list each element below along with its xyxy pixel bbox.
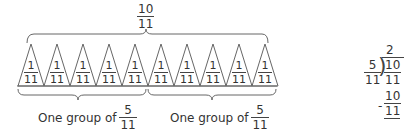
piece-denominator: 11 [154, 72, 168, 85]
piece-denominator: 11 [50, 72, 64, 85]
piece-numerator: 1 [210, 60, 217, 72]
divisor-denominator: 11 [364, 72, 381, 86]
piece-label: 1 11 [148, 60, 174, 85]
piece-denominator: 11 [206, 72, 220, 85]
piece-label: 1 11 [200, 60, 226, 85]
group-denominator: 11 [119, 117, 136, 131]
piece-label: 1 11 [18, 60, 44, 85]
group-fraction: 5 11 [119, 104, 136, 131]
group-label-text: One group of [38, 111, 116, 125]
piece-denominator: 11 [24, 72, 38, 85]
piece-label: 1 11 [252, 60, 278, 85]
dividend-denominator: 11 [384, 72, 401, 86]
dividend-fraction: 10 11 [384, 59, 401, 86]
piece-label: 1 11 [96, 60, 122, 85]
piece-denominator: 11 [102, 72, 116, 85]
divisor-fraction: 5 11 [364, 59, 381, 86]
long-division: 2 ) 5 11 10 11 - 10 11 [364, 44, 408, 130]
piece-numerator: 1 [158, 60, 165, 72]
piece-denominator: 11 [128, 72, 142, 85]
product-fraction: 10 11 [384, 90, 401, 117]
product-denominator: 11 [384, 103, 401, 117]
piece-numerator: 1 [106, 60, 113, 72]
subtraction-line [384, 118, 400, 119]
group-denominator: 11 [251, 117, 268, 131]
quotient: 2 [386, 44, 394, 56]
minus-sign: - [378, 99, 382, 113]
piece-denominator: 11 [76, 72, 90, 85]
piece-numerator: 1 [262, 60, 269, 72]
piece-label: 1 11 [174, 60, 200, 85]
group-numerator: 5 [123, 104, 133, 117]
piece-numerator: 1 [132, 60, 139, 72]
top-brace [27, 29, 268, 43]
piece-label: 1 11 [70, 60, 96, 85]
right-group-label: One group of 5 11 [170, 104, 269, 131]
piece-label: 1 11 [44, 60, 70, 85]
right-group-brace [148, 89, 276, 100]
group-numerator: 5 [255, 104, 265, 117]
dividend-numerator: 10 [384, 59, 401, 72]
piece-label: 1 11 [226, 60, 252, 85]
piece-numerator: 1 [54, 60, 61, 72]
piece-denominator: 11 [232, 72, 246, 85]
piece-numerator: 1 [184, 60, 191, 72]
left-group-brace [18, 89, 146, 100]
piece-denominator: 11 [258, 72, 272, 85]
divisor-numerator: 5 [368, 59, 378, 72]
piece-numerator: 1 [236, 60, 243, 72]
group-label-text: One group of [170, 111, 248, 125]
piece-label: 1 11 [122, 60, 148, 85]
product-numerator: 10 [384, 90, 401, 103]
piece-denominator: 11 [180, 72, 194, 85]
group-fraction: 5 11 [251, 104, 268, 131]
piece-numerator: 1 [80, 60, 87, 72]
left-group-label: One group of 5 11 [38, 104, 137, 131]
piece-numerator: 1 [28, 60, 35, 72]
